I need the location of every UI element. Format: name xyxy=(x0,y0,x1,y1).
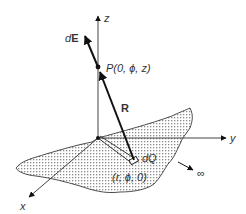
r-vector-label: R xyxy=(121,102,129,114)
de-label-e: E xyxy=(71,32,78,44)
point-p-label: P(0, ϕ, z) xyxy=(106,62,151,74)
x-axis-label: x xyxy=(19,200,26,212)
dq-label: dQ xyxy=(142,152,157,164)
point-p-coords: (0, ϕ, z) xyxy=(113,62,151,74)
de-vector xyxy=(85,36,98,67)
z-axis-label: z xyxy=(103,12,110,24)
diagram-canvas: z y x dE P(0, ϕ, z) R dQ (r, ϕ, 0) ∞ xyxy=(0,0,246,214)
de-label: dE xyxy=(65,32,78,44)
point-p xyxy=(96,65,101,70)
infinity-label: ∞ xyxy=(197,167,205,179)
charged-plane xyxy=(16,108,192,193)
origin-point xyxy=(96,136,100,140)
dq-coords-label: (r, ϕ, 0) xyxy=(112,171,147,183)
infinity-arrow xyxy=(178,162,193,170)
y-axis-label: y xyxy=(229,132,237,144)
